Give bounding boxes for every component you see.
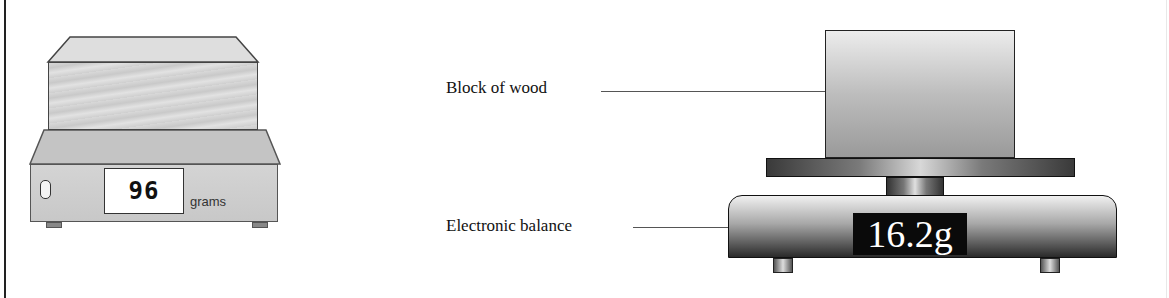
power-indicator-icon <box>40 180 51 199</box>
label-block-of-wood: Block of wood <box>446 78 547 98</box>
wood-block-top-face <box>48 36 258 62</box>
display-reading-diagram: 16.2g <box>867 215 953 253</box>
balance-base-top-face <box>30 130 280 166</box>
leader-line-balance <box>633 227 729 228</box>
left-border-line <box>4 0 6 298</box>
leader-line-block <box>601 91 825 92</box>
balance-foot-right <box>252 222 268 228</box>
balance-foot-left-diagram <box>773 258 793 273</box>
balance-post <box>886 177 944 196</box>
digital-display: 96 <box>104 168 184 214</box>
balance-foot-right-diagram <box>1040 258 1060 273</box>
digital-display-diagram: 16.2g <box>853 213 967 255</box>
wood-block-diagram <box>825 30 1015 158</box>
balance-foot-left <box>46 222 62 228</box>
display-reading: 96 <box>129 177 160 205</box>
left-balance-illustration: 96 grams <box>28 34 280 234</box>
wood-block <box>48 62 258 130</box>
right-border-line <box>1166 0 1167 298</box>
unit-label: grams <box>190 194 226 209</box>
label-electronic-balance: Electronic balance <box>446 216 572 236</box>
balance-pan-diagram <box>766 158 1075 177</box>
